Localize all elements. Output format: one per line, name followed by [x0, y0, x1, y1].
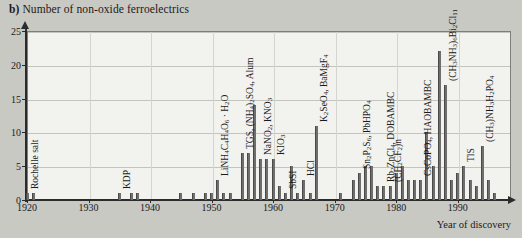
- y-tick-label: 20: [1, 59, 21, 70]
- bar-annotation: LiNH4C4H4O6 · H2O: [221, 94, 231, 175]
- bar: [222, 193, 225, 200]
- bar: [364, 166, 367, 200]
- bar: [241, 153, 244, 200]
- bar: [438, 51, 441, 200]
- y-tick-mark: [22, 65, 26, 66]
- bar: [130, 193, 133, 200]
- x-tick-label: 1990: [448, 202, 468, 213]
- x-tick-mark: [458, 200, 459, 203]
- bar: [413, 180, 416, 200]
- bar: [210, 193, 213, 200]
- bar-annotation: HCl: [307, 160, 317, 176]
- y-tick-label: 15: [1, 93, 21, 104]
- bar: [462, 166, 465, 200]
- bar-annotation: SbSI: [289, 171, 299, 189]
- bar: [259, 159, 262, 200]
- bar: [265, 159, 268, 200]
- bar: [204, 193, 207, 200]
- y-gridline: [28, 32, 510, 33]
- bar: [487, 180, 490, 200]
- bar: [358, 173, 361, 200]
- x-tick-label: 1970: [325, 202, 345, 213]
- x-tick-mark: [396, 200, 397, 203]
- bar-annotation: TlS: [467, 148, 477, 162]
- x-tick-mark: [335, 200, 336, 203]
- title-text: Number of non-oxide ferroelectrics: [22, 3, 189, 15]
- bar: [419, 180, 422, 200]
- bar-annotation: (CH2CF2)n: [394, 140, 404, 183]
- x-gridline: [151, 32, 152, 199]
- y-tick-mark: [22, 200, 26, 201]
- x-tick-mark: [273, 200, 274, 203]
- y-axis: [25, 27, 27, 202]
- bar: [136, 193, 139, 200]
- bar: [469, 180, 472, 200]
- x-tick-mark: [212, 200, 213, 203]
- y-tick-mark: [22, 31, 26, 32]
- y-axis-arrow: [21, 21, 29, 29]
- bar-annotation: Rochelle salt: [31, 140, 41, 189]
- y-tick-label: 5: [1, 161, 21, 172]
- x-tick-mark: [27, 200, 28, 203]
- y-tick-label: 10: [1, 127, 21, 138]
- y-tick-mark: [22, 132, 26, 133]
- y-tick-mark: [22, 99, 26, 100]
- bar: [32, 193, 35, 200]
- bar: [216, 180, 219, 200]
- bar: [370, 166, 373, 200]
- x-gridline: [336, 32, 337, 199]
- x-tick-label: 1930: [79, 202, 99, 213]
- bar: [192, 193, 195, 200]
- bar-annotation: NaNO2, KNO3: [264, 98, 274, 155]
- x-tick-label: 1980: [386, 202, 406, 213]
- x-tick-mark: [150, 200, 151, 203]
- bar-annotation: KIO3: [277, 135, 287, 155]
- x-tick-mark: [89, 200, 90, 203]
- title-prefix: b): [9, 3, 19, 15]
- page-title: b) Number of non-oxide ferroelectrics: [9, 3, 189, 15]
- bar-annotation: KDP: [123, 170, 133, 189]
- x-gridline: [213, 32, 214, 199]
- bar: [444, 85, 447, 200]
- bar: [247, 153, 250, 200]
- bar: [302, 180, 305, 200]
- chart-figure: b) Number of non-oxide ferroelectrics 05…: [0, 0, 522, 238]
- x-axis-arrow: [508, 196, 516, 204]
- bar-annotation: Sn2P2S6, PbHPO4: [363, 101, 373, 169]
- y-tick-label: 25: [1, 26, 21, 37]
- bar-annotation: TGS, (NH4)2SO4, Alum: [246, 57, 256, 148]
- bar: [493, 193, 496, 200]
- bar: [456, 173, 459, 200]
- x-gridline: [90, 32, 91, 199]
- x-tick-label: 1950: [202, 202, 222, 213]
- x-axis-label: Year of discovery: [437, 219, 511, 230]
- bar: [118, 193, 121, 200]
- bar: [284, 193, 287, 200]
- y-tick-mark: [22, 166, 26, 167]
- bar: [475, 186, 478, 200]
- bar: [407, 180, 410, 200]
- bar-annotation: (CH3NH3)6Bi2Cl11: [449, 9, 459, 81]
- x-tick-label: 1960: [263, 202, 283, 213]
- bar-annotation: K2SeO4, BaMgF4: [320, 54, 330, 122]
- bar: [26, 193, 29, 200]
- bar: [450, 180, 453, 200]
- bar: [309, 193, 312, 200]
- x-tick-label: 1920: [17, 202, 37, 213]
- bar: [376, 186, 379, 200]
- bar: [296, 193, 299, 200]
- bar-annotation: (CH3)NH3H2PO4: [486, 76, 496, 142]
- bar: [339, 193, 342, 200]
- bar: [229, 193, 232, 200]
- bar-annotation: CsCoPO4, HAOBAMBC: [424, 79, 434, 175]
- bar: [481, 146, 484, 200]
- bar: [389, 186, 392, 200]
- bar: [179, 193, 182, 200]
- x-tick-label: 1940: [140, 202, 160, 213]
- bar: [352, 180, 355, 200]
- bar: [272, 159, 275, 200]
- bar: [382, 186, 385, 200]
- bar: [278, 186, 281, 200]
